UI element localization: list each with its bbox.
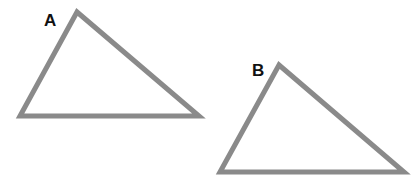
triangle-a-label: A	[44, 11, 56, 31]
diagram-canvas: A B	[0, 0, 415, 185]
triangle-b-label: B	[252, 61, 264, 81]
triangles-svg	[0, 0, 415, 185]
triangle-b	[220, 65, 404, 172]
